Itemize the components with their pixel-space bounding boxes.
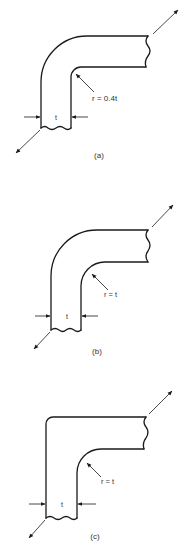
- bend-radius-diagram: t r = 0.4t (a) t r = t (b) t r = t (c): [0, 0, 194, 549]
- thickness-label: t: [66, 313, 68, 320]
- break-line-right: [143, 417, 148, 449]
- break-line-right: [146, 230, 150, 262]
- panel-a: t r = 0.4t (a): [16, 10, 178, 160]
- radius-leader: [92, 274, 108, 290]
- thickness-label: t: [55, 114, 57, 121]
- break-line-bottom: [46, 517, 77, 520]
- thickness-label: t: [61, 501, 63, 508]
- force-arrow-lower: [34, 332, 50, 349]
- break-line-bottom: [41, 127, 71, 130]
- panel-caption: (b): [92, 347, 102, 356]
- panel-c: t r = t (c): [29, 391, 172, 541]
- radius-leader: [76, 74, 94, 92]
- force-arrow-upper: [153, 10, 178, 34]
- outer-contour: [41, 36, 148, 128]
- radius-label: r = 0.4t: [92, 94, 118, 103]
- break-line-bottom: [51, 329, 81, 332]
- force-arrow-upper: [149, 391, 172, 414]
- force-arrow-lower: [29, 520, 45, 538]
- radius-label: r = t: [101, 477, 115, 486]
- radius-label: r = t: [104, 290, 118, 299]
- force-arrow-upper: [152, 205, 173, 227]
- panel-caption: (c): [90, 532, 100, 541]
- radius-leader: [87, 463, 101, 477]
- panel-b: t r = t (b): [34, 205, 173, 356]
- break-line-right: [145, 36, 150, 67]
- force-arrow-lower: [16, 130, 40, 153]
- panel-caption: (a): [94, 151, 104, 160]
